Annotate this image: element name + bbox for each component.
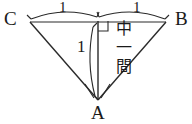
length-label-left: 1 bbox=[59, 0, 67, 15]
measure-arc-ma-tick-start bbox=[93, 23, 97, 27]
length-label-right: 1 bbox=[133, 0, 141, 15]
annotation-char-1: 中 bbox=[116, 20, 132, 39]
geometry-figure: C B A 1 1 1 中 一 間 bbox=[0, 0, 192, 124]
length-label-vertical: 1 bbox=[77, 38, 86, 55]
measure-arc-ma bbox=[90, 27, 95, 96]
measure-arc-cm-tick-start bbox=[27, 15, 31, 19]
chuukan-annotation: 中 一 間 bbox=[112, 20, 136, 77]
annotation-char-3: 間 bbox=[116, 58, 132, 77]
vertex-label-c: C bbox=[4, 9, 17, 28]
measure-arc-mb bbox=[99, 12, 165, 19]
measure-arc-mb-tick-end bbox=[165, 15, 169, 19]
vertex-label-b: B bbox=[175, 9, 188, 28]
vertex-label-a: A bbox=[91, 103, 105, 122]
annotation-char-2: 一 bbox=[116, 39, 132, 58]
angle-mark-a-right bbox=[101, 84, 110, 98]
